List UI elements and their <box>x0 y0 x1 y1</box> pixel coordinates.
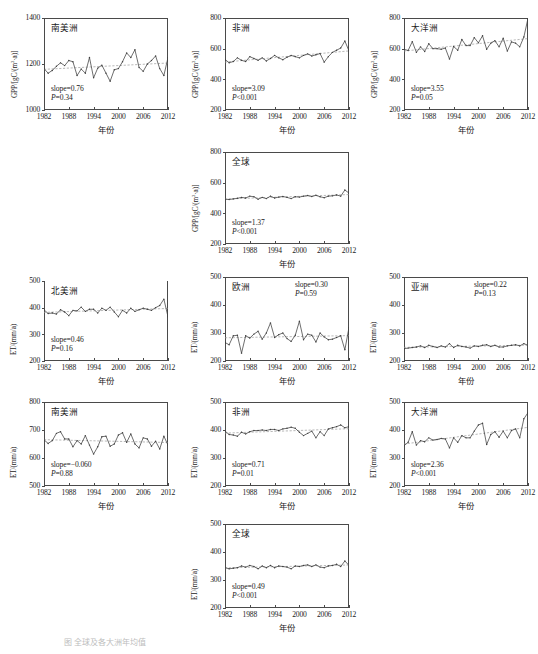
x-tick-label: 2006 <box>317 610 331 619</box>
y-tick-label: 500 <box>199 519 221 528</box>
y-tick-label: 400 <box>199 547 221 556</box>
x-tick-label: 1982 <box>218 610 232 619</box>
y-tick-mark <box>223 608 226 609</box>
y-tick-mark <box>223 524 226 525</box>
slope-label: slope=0.49 <box>232 582 265 591</box>
x-tick-mark <box>250 605 251 608</box>
y-tick-mark <box>223 552 226 553</box>
x-tick-mark <box>324 605 325 608</box>
p-value-label: P<0.001 <box>232 591 265 600</box>
x-tick-label: 1994 <box>267 610 281 619</box>
x-tick-label: 2012 <box>342 610 356 619</box>
x-tick-mark <box>225 605 226 608</box>
x-tick-mark <box>275 605 276 608</box>
x-axis-label: 年份 <box>225 621 349 633</box>
y-axis-label: ET/(mm/a) <box>191 569 199 600</box>
figure-caption: 图 全球及各大洲年均值 <box>64 636 146 647</box>
y-tick-mark <box>223 580 226 581</box>
x-tick-label: 2000 <box>292 610 306 619</box>
panel-title: 全球 <box>232 527 250 539</box>
x-tick-row: 198219881994200020062012 <box>0 610 538 620</box>
x-tick-label: 1988 <box>243 610 257 619</box>
x-tick-mark <box>349 605 350 608</box>
y-tick-label: 300 <box>199 575 221 584</box>
panel-et-global: 200300400500ET/(mm/a)1982198819942000200… <box>0 0 538 654</box>
panel-stats: slope=0.49P<0.001 <box>232 582 265 601</box>
x-tick-mark <box>299 605 300 608</box>
